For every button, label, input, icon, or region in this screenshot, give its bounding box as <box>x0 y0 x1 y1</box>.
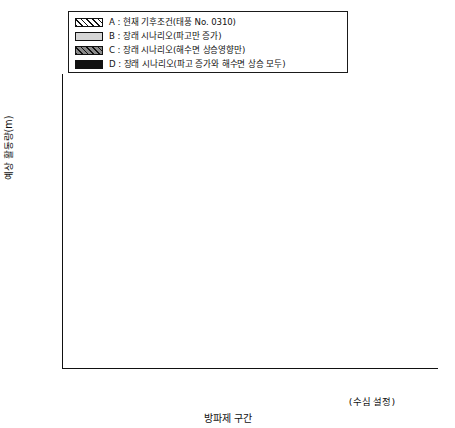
legend-label-a: A : 현재 기후조건(태풍 No. 0310) <box>109 17 236 27</box>
x-axis-note: (수심 설정) <box>349 394 395 408</box>
light-gray-swatch-icon <box>75 32 103 41</box>
legend-label-c: C : 장래 시나리오(해수면 상승영향만) <box>109 45 245 55</box>
plot-area <box>62 74 438 369</box>
legend-item-b: B : 장래 시나리오(파고만 증가) <box>75 29 342 43</box>
legend-item-c: C : 장래 시나리오(해수면 상승영향만) <box>75 43 342 57</box>
legend-item-a: A : 현재 기후조건(태풍 No. 0310) <box>75 15 342 29</box>
x-axis-title: 방파제 구간 <box>204 410 252 425</box>
black-swatch-icon <box>75 60 103 69</box>
y-axis-title: 예상 활동량(m) <box>1 116 15 181</box>
chart-legend: A : 현재 기후조건(태풍 No. 0310) B : 장래 시나리오(파고만… <box>68 11 348 73</box>
hatch-dark-gray-swatch-icon <box>75 46 103 55</box>
legend-label-d: D : 장래 시나리오(파고 증가와 해수면 상승 모두) <box>109 59 285 69</box>
legend-label-b: B : 장래 시나리오(파고만 증가) <box>109 31 222 41</box>
legend-item-d: D : 장래 시나리오(파고 증가와 해수면 상승 모두) <box>75 57 342 71</box>
hatch-white-swatch-icon <box>75 18 103 27</box>
chart-figure: A : 현재 기후조건(태풍 No. 0310) B : 장래 시나리오(파고만… <box>0 0 455 428</box>
